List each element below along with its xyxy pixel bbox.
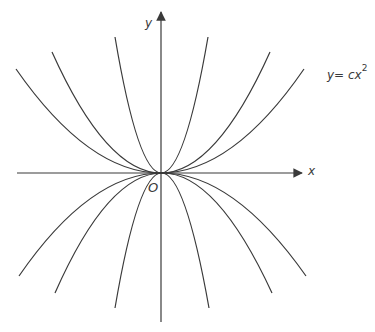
y-axis-label: y: [145, 17, 152, 29]
x-axis-label: x: [308, 165, 315, 177]
diagram-canvas: [0, 0, 375, 332]
origin-label: O: [148, 181, 158, 194]
equation-equals: =: [334, 68, 348, 82]
parabola-family-diagram: y x O y= cx2: [0, 0, 375, 332]
equation-label: y= cx2: [327, 67, 367, 81]
equation-coefficient: c: [348, 68, 355, 82]
parabola-positive-shallow: [16, 69, 304, 173]
parabola-negative-medium: [55, 173, 272, 293]
parabola-negative-steep: [115, 173, 209, 308]
equation-variable: x: [355, 68, 362, 82]
parabola-negative-shallow: [19, 173, 306, 276]
equation-exponent: 2: [362, 63, 368, 73]
